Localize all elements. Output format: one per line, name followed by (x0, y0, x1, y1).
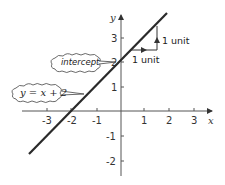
graph-canvas: -3 -2 -1 1 2 3 x 3 2 1 -1 -2 y 1 unit 1 … (0, 0, 225, 185)
x-tick-label: 1 (141, 115, 147, 126)
x-tick-label: -1 (92, 115, 102, 126)
y-axis (121, 15, 124, 176)
intercept-callout: intercept (51, 54, 116, 73)
x-tick-label: 2 (166, 115, 172, 126)
line-y-equals-x-plus-2 (29, 13, 167, 154)
y-tick-label: 1 (111, 82, 117, 93)
x-tick-label: 3 (191, 115, 197, 126)
x-axis-label: x (208, 115, 214, 126)
rise-label: 1 unit (162, 35, 190, 46)
run-label: 1 unit (132, 54, 160, 65)
equation-label: y = x + 2 (19, 87, 67, 98)
y-tick-label: -2 (106, 156, 116, 167)
x-axis (22, 108, 212, 111)
y-tick-label: -1 (106, 131, 116, 142)
equation-callout: y = x + 2 (12, 84, 84, 103)
y-tick-label: 3 (111, 33, 117, 44)
x-tick-label: -3 (42, 115, 52, 126)
y-axis-label: y (109, 12, 116, 23)
intercept-label: intercept (61, 57, 100, 67)
x-tick-label: -2 (67, 115, 77, 126)
